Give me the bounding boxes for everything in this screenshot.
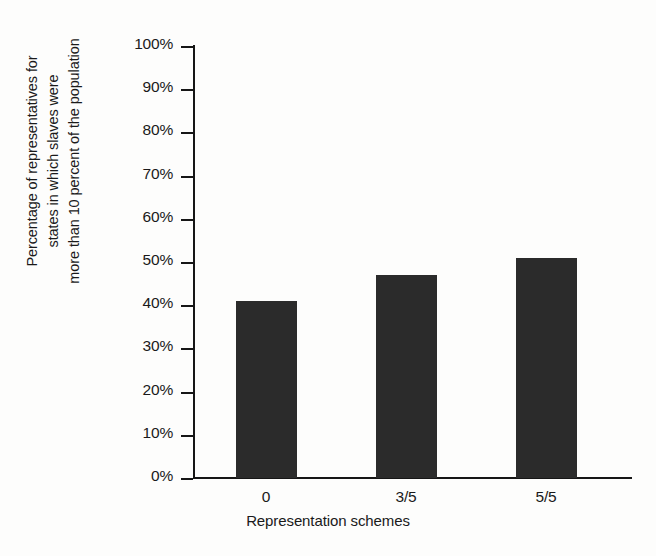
x-axis-title: Representation schemes <box>0 512 656 529</box>
bar-5-5 <box>516 258 577 478</box>
y-tick-mark <box>181 219 193 221</box>
y-axis-title-line-1: Percentage of representatives for <box>22 55 43 266</box>
bar-3-5 <box>376 275 437 478</box>
bar-0 <box>236 301 297 478</box>
y-tick-mark <box>181 435 193 437</box>
y-axis-title-line-3: more than 10 percent of the population <box>64 38 85 283</box>
y-tick-mark <box>181 46 193 48</box>
x-tick-label-3-5: 3/5 <box>346 488 466 506</box>
y-tick-mark <box>181 392 193 394</box>
x-tick-label-5-5: 5/5 <box>486 488 606 506</box>
bar-chart-figure: Percentage of representatives for states… <box>0 0 656 556</box>
y-tick-label: 100% <box>134 35 173 53</box>
y-tick-mark <box>181 132 193 134</box>
y-tick-mark <box>181 478 193 480</box>
y-axis-title: Percentage of representatives for states… <box>22 0 84 356</box>
y-tick-mark <box>181 262 193 264</box>
y-tick-label: 0% <box>151 467 173 485</box>
x-tick-label-0: 0 <box>206 488 326 506</box>
y-tick-mark <box>181 89 193 91</box>
y-tick-mark <box>181 348 193 350</box>
y-tick-label: 10% <box>143 424 173 442</box>
y-tick-label: 80% <box>143 121 173 139</box>
y-tick-label: 90% <box>143 78 173 96</box>
plot-area <box>193 46 632 478</box>
y-tick-label: 60% <box>143 208 173 226</box>
y-tick-label: 70% <box>143 165 173 183</box>
y-tick-label: 20% <box>143 381 173 399</box>
y-tick-mark <box>181 305 193 307</box>
y-tick-label: 30% <box>143 337 173 355</box>
y-tick-mark <box>181 176 193 178</box>
y-tick-label: 40% <box>143 294 173 312</box>
y-axis-title-line-2: states in which slaves were <box>43 75 64 248</box>
y-tick-label: 50% <box>143 251 173 269</box>
